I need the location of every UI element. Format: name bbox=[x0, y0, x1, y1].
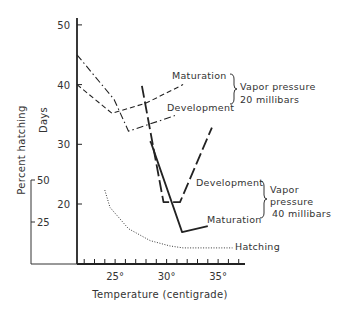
x-tick-label: 25° bbox=[106, 271, 124, 282]
y2-tick-label: 50 bbox=[37, 175, 50, 186]
brace-20mb bbox=[230, 74, 237, 104]
x-axis-title: Temperature (centigrade) bbox=[91, 289, 227, 300]
y-ticks: 20304050 bbox=[57, 20, 82, 210]
y-tick-label: 40 bbox=[57, 80, 70, 91]
label-development-20mb: Development bbox=[167, 102, 234, 113]
percent-axis-title: Percent hatching bbox=[16, 105, 27, 194]
y-tick-label: 50 bbox=[57, 20, 70, 31]
group-label-40mb-line2: pressure bbox=[270, 196, 313, 207]
label-development-40mb: Development bbox=[196, 177, 263, 188]
label-maturation-40mb: Maturation bbox=[207, 214, 262, 225]
x-tick-labels: 25°30°35° bbox=[106, 271, 227, 282]
y-tick-label: 30 bbox=[57, 139, 70, 150]
y-tick-label: 20 bbox=[57, 199, 70, 210]
series-line-development-20-millibars bbox=[77, 55, 175, 131]
label-maturation-20mb: Maturation bbox=[172, 70, 227, 81]
group-label-20mb-line1: Vapor pressure bbox=[240, 81, 316, 92]
chart: 25°30°35° 20304050 2550 Temperature (cen… bbox=[0, 0, 344, 312]
group-label-40mb-line3: 40 millibars bbox=[272, 208, 331, 219]
x-tick-label: 30° bbox=[158, 271, 176, 282]
y2-tick-label: 25 bbox=[37, 217, 50, 228]
days-axis-title: Days bbox=[38, 107, 49, 133]
group-label-40mb-line1: Vapor bbox=[270, 184, 299, 195]
label-hatching: Hatching bbox=[235, 241, 280, 252]
x-tick-label: 35° bbox=[209, 271, 227, 282]
group-label-20mb-line2: 20 millibars bbox=[240, 94, 299, 105]
y2-ticks: 2550 bbox=[31, 175, 50, 228]
